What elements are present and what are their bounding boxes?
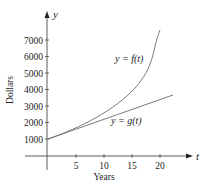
g-label: y = g(t) bbox=[110, 115, 142, 127]
chart: y t 1000 2000 3000 4000 5000 6000 7000 5… bbox=[0, 0, 203, 185]
f-label: y = f(t) bbox=[114, 53, 144, 65]
y-axis-arrow-icon bbox=[45, 11, 50, 18]
xtick-label: 10 bbox=[99, 161, 109, 171]
ytick-label: 3000 bbox=[24, 102, 43, 112]
y-ticks: 1000 2000 3000 4000 5000 6000 7000 bbox=[24, 36, 49, 145]
ytick-label: 7000 bbox=[24, 36, 43, 46]
xtick-label: 15 bbox=[127, 161, 137, 171]
xtick-label: 20 bbox=[155, 161, 165, 171]
ytick-label: 1000 bbox=[24, 135, 43, 145]
x-axis-var: t bbox=[196, 150, 200, 162]
ytick-label: 2000 bbox=[24, 118, 43, 128]
series-f-curve bbox=[48, 30, 160, 139]
ytick-label: 5000 bbox=[24, 69, 43, 79]
y-axis-title: Dollars bbox=[5, 76, 15, 104]
x-axis-title: Years bbox=[93, 172, 115, 182]
xtick-label: 5 bbox=[74, 161, 79, 171]
ytick-label: 4000 bbox=[24, 85, 43, 95]
x-axis-arrow-icon bbox=[186, 154, 193, 159]
y-axis-var: y bbox=[52, 8, 58, 20]
x-ticks: 5 10 15 20 bbox=[74, 154, 165, 171]
ytick-label: 6000 bbox=[24, 52, 43, 62]
